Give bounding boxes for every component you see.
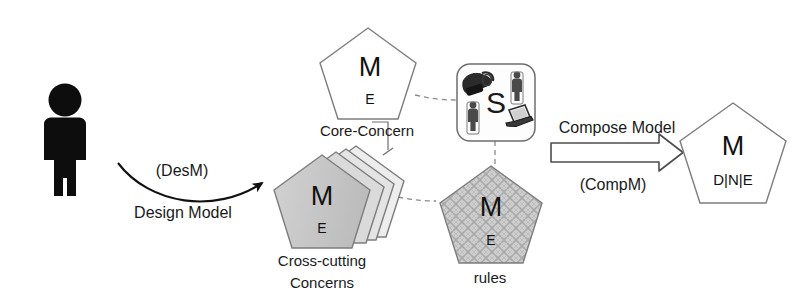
composed-model-glyph-dne: D|N|E [713, 171, 752, 188]
compose-arrow-label-above: Compose Model [559, 119, 676, 136]
core-concern-glyph-m: M [359, 52, 382, 82]
design-arrow-label-below: Design Model [134, 204, 232, 221]
composition-spec-glyph-s: S [486, 86, 506, 119]
designer-person-icon [44, 84, 86, 199]
compose-arrow-shape [551, 134, 683, 171]
node-core-concern[interactable]: M E [320, 28, 416, 119]
cross-cutting-caption-line1: Cross-cutting [278, 252, 366, 269]
node-rules[interactable]: M E [440, 166, 542, 263]
compose-arrow-label-below: (CompM) [580, 176, 647, 193]
diagram-svg: (DesM) Design Model M E Core-Concern [0, 0, 811, 308]
compose-model-arrow [551, 134, 683, 171]
rules-caption: rules [474, 269, 507, 286]
composed-model-glyph-m: M [722, 131, 745, 161]
cross-cutting-glyph-e: E [317, 220, 326, 236]
core-concern-caption: Core-Concern [320, 122, 414, 139]
design-arrow-label-above: (DesM) [156, 162, 208, 179]
node-composed-model[interactable]: M D|N|E [680, 103, 786, 203]
connector-crosscutting-to-rules [398, 197, 436, 201]
cross-cutting-caption-line2: Concerns [290, 274, 354, 291]
connector-core-to-spec [415, 95, 456, 100]
rules-glyph-m: M [480, 192, 503, 222]
diagram-canvas: (DesM) Design Model M E Core-Concern [0, 0, 811, 308]
cross-cutting-glyph-m: M [311, 181, 334, 211]
node-cross-cutting-concerns[interactable]: M E [274, 146, 404, 248]
rules-glyph-e: E [486, 232, 495, 248]
node-composition-spec[interactable]: S [457, 64, 535, 141]
core-concern-glyph-e: E [365, 91, 374, 107]
